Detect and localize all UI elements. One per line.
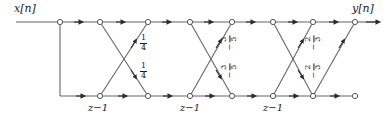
coefficient-stage-3-upper: − 2 3 [304,36,322,51]
coef-denominator: 5 [230,36,238,43]
stage-4-crossing [313,22,355,96]
coef-numerator: 1 [140,34,147,42]
coef-sign: − [309,44,318,51]
coef-numerator: 2 [304,36,312,43]
coef-denominator: 3 [314,36,322,43]
coef-numerator: 3 [220,36,228,43]
lattice-filter-diagram: x[n] y[n] z−1 z−1 z−1 1 4 1 4 − [0,0,390,122]
coef-sign: − [225,44,234,51]
coef-denominator: 4 [140,44,147,52]
output-label: y[n] [352,2,374,15]
coefficient-stage-3-lower: − 2 3 [304,64,322,79]
delay-label-3: z−1 [263,102,283,113]
coef-denominator: 3 [314,64,322,71]
coef-numerator: 2 [304,64,312,71]
coefficient-stage-2-upper: − 3 5 [220,36,238,51]
delay-label-1: z−1 [88,102,108,113]
coef-denominator: 5 [230,64,238,71]
coef-numerator: 1 [140,62,147,70]
coef-sign: − [309,72,318,79]
stage-2-crossing [190,22,232,96]
delay-label-2: z−1 [180,102,200,113]
coef-sign: − [225,72,234,79]
coef-denominator: 4 [140,72,147,80]
stage-3-crossing [273,22,313,96]
coef-numerator: 3 [220,64,228,71]
coefficient-stage-1-upper: 1 4 [139,34,147,52]
coefficient-stage-2-lower: − 3 5 [220,64,238,79]
input-label: x[n] [14,2,36,15]
coefficient-stage-1-lower: 1 4 [139,62,147,80]
